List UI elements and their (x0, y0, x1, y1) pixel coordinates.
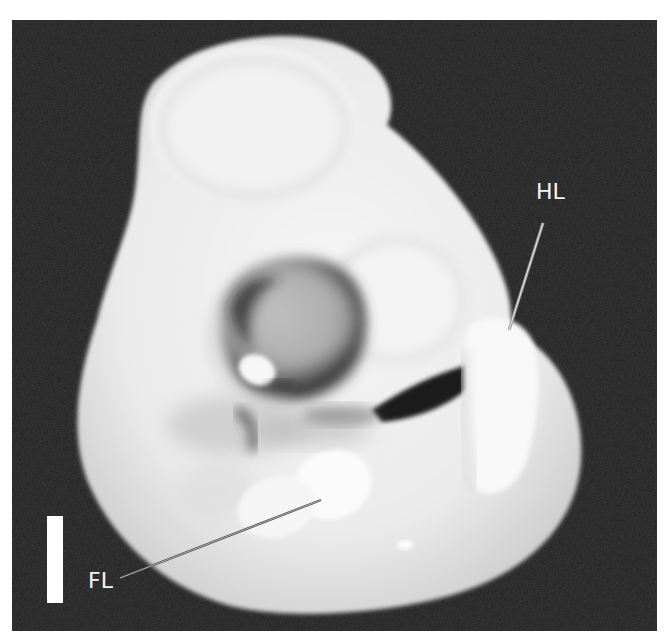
label-hl: HL (536, 181, 565, 203)
label-fl: FL (88, 570, 113, 592)
scale-bar (47, 516, 63, 603)
head-lobe (149, 45, 359, 205)
embryo-photograph (12, 20, 657, 631)
